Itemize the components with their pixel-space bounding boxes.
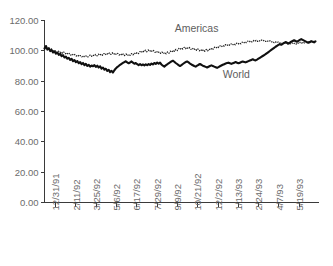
x-tick-label: 2/11/92	[71, 180, 82, 211]
x-tick-label: 9/9/92	[172, 184, 183, 210]
x-tick-label: 5/6/92	[111, 184, 122, 210]
x-tick-label: 6/17/92	[131, 179, 142, 211]
series-annotation-world: World	[223, 68, 250, 80]
y-axis-tick-labels: 0.0020.0040.0060.0080.00100.00120.00	[9, 15, 38, 208]
y-tick-label: 0.00	[20, 197, 39, 208]
x-axis-tick-labels: 12/31/912/11/923/25/925/6/926/17/927/29/…	[50, 174, 305, 211]
x-tick-label: 5/19/93	[294, 179, 305, 211]
y-axis-group: 0.0020.0040.0060.0080.00100.00120.00	[9, 15, 44, 208]
y-tick-label: 100.00	[9, 45, 38, 56]
y-tick-label: 120.00	[9, 15, 38, 26]
y-tick-label: 20.00	[15, 167, 39, 178]
x-tick-label: 10/21/92	[192, 174, 203, 211]
series-annotation-labels: AmericasWorld	[175, 22, 250, 80]
x-tick-label: 1/13/93	[233, 179, 244, 211]
y-tick-label: 60.00	[15, 106, 39, 117]
x-tick-label: 3/25/92	[91, 179, 102, 211]
y-tick-label: 40.00	[15, 136, 39, 147]
series-line-world	[45, 39, 316, 72]
x-tick-label: 7/29/92	[152, 179, 163, 211]
chart-canvas: 0.0020.0040.0060.0080.00100.00120.00 12/…	[0, 0, 333, 266]
plot-series-group	[45, 39, 316, 72]
y-tick-label: 80.00	[15, 76, 39, 87]
x-tick-label: 2/24/93	[253, 179, 264, 211]
x-axis-group: 12/31/912/11/923/25/925/6/926/17/927/29/…	[45, 174, 319, 211]
series-line-americas	[45, 40, 316, 57]
series-annotation-americas: Americas	[175, 22, 219, 34]
x-tick-label: 12/2/92	[213, 179, 224, 211]
line-chart: 0.0020.0040.0060.0080.00100.00120.00 12/…	[0, 0, 333, 266]
x-tick-label: 4/7/93	[274, 184, 285, 210]
x-tick-label: 12/31/91	[50, 174, 61, 211]
